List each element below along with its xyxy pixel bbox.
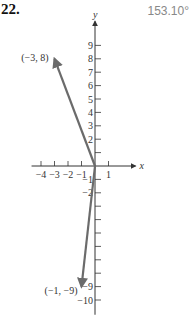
y-tick-label: 3	[88, 120, 93, 131]
y-tick-label: −9	[82, 281, 93, 292]
vector-endpoint-label: (−1, −9)	[45, 285, 78, 297]
x-tick-label: −2	[63, 169, 74, 180]
vector-plot: xy−4−3−2−1123456789−1−2−9−10 (−3, 8)(−1,…	[0, 0, 193, 315]
x-tick-label: −4	[36, 169, 47, 180]
y-tick-label: 8	[88, 53, 93, 64]
y-tick-label: 2	[88, 134, 93, 145]
y-tick-label: 6	[88, 80, 93, 91]
y-axis-label: y	[92, 9, 98, 20]
x-tick-label: −3	[49, 169, 60, 180]
x-tick-label: 1	[106, 169, 111, 180]
y-tick-label: −1	[82, 174, 93, 185]
y-tick-label: −10	[77, 295, 93, 306]
x-axis-label: x	[139, 160, 145, 171]
y-tick-label: 7	[88, 67, 93, 78]
vector-endpoint-label: (−3, 8)	[21, 52, 48, 64]
y-tick-label: 4	[88, 107, 93, 118]
y-tick-label: 5	[88, 94, 93, 105]
y-tick-label: 9	[88, 40, 93, 51]
